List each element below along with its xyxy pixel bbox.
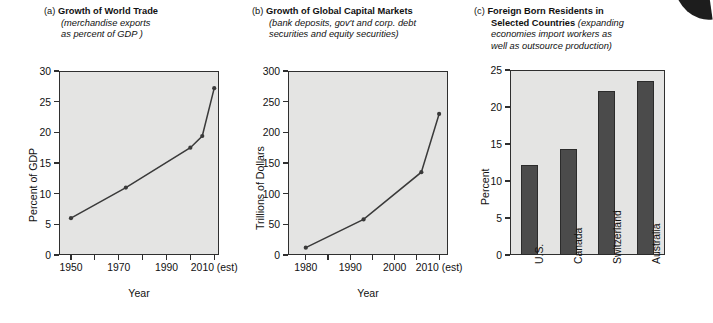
data-point-marker [304, 246, 308, 250]
data-point-marker [437, 112, 441, 116]
y-tick-label: 15 [468, 139, 502, 150]
y-tick-mark [505, 180, 510, 181]
y-tick-label: 5 [468, 213, 502, 224]
category-label: Australia [651, 224, 662, 264]
category-label: Canada [573, 228, 584, 264]
y-tick-mark [505, 217, 510, 218]
category-label: U.S. [534, 244, 545, 264]
series-polyline [306, 114, 439, 248]
category-label: Switzerland [612, 210, 623, 264]
y-tick-label: 10 [468, 176, 502, 187]
y-tick-mark [505, 254, 510, 255]
y-tick-label: 25 [468, 65, 502, 76]
y-tick-label: 20 [468, 102, 502, 113]
chart-c-y-axis-label: Percent [479, 168, 491, 205]
y-tick-mark [505, 106, 510, 107]
data-point-marker [361, 217, 365, 221]
bar-us [521, 165, 538, 255]
y-tick-mark [505, 143, 510, 144]
data-point-marker [419, 170, 423, 174]
y-tick-mark [505, 69, 510, 70]
y-tick-label: 0 [468, 250, 502, 261]
